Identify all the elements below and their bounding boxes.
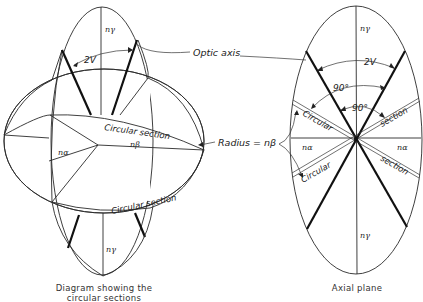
label-90-inner: 90° [352, 103, 368, 113]
label-2v-left: 2V [84, 55, 97, 65]
two-v-arc [74, 50, 132, 65]
left-indicatrix: nγ 2V Circular section nβ nα Circular se… [4, 7, 204, 302]
label-90-outer: 90° [333, 83, 349, 93]
label-n-beta: nβ [130, 140, 140, 149]
caption-left-line2: circular sections [67, 293, 142, 302]
optic-axis-left-lower [68, 215, 79, 248]
optic-axis-leader-right [240, 56, 306, 60]
label-section-lower-right: section [379, 153, 411, 177]
optic-axis-right-lower [135, 213, 145, 237]
label-circular-upper-left: Circular [301, 108, 335, 133]
label-section-upper-right: section [378, 105, 410, 129]
label-n-alpha-left: nα [302, 143, 313, 152]
label-2v-right: 2V [364, 57, 377, 67]
label-n-gamma-top-right: nγ [360, 24, 370, 33]
caption-left-line1: Diagram showing the [56, 283, 153, 293]
optic-axis-leader-left [138, 45, 190, 53]
left-axis [4, 135, 49, 138]
callouts: Optic axis Radius = nβ [138, 45, 306, 178]
radius-leader-upper [279, 112, 296, 144]
label-n-gamma-bottom: nγ [106, 245, 116, 254]
label-n-gamma-top: nγ [105, 25, 115, 34]
label-n-gamma-bottom-right: nγ [360, 231, 370, 240]
label-optic-axis: Optic axis [193, 47, 240, 58]
indicatrix-diagram: nγ 2V Circular section nβ nα Circular se… [0, 0, 423, 302]
label-n-alpha: nα [58, 148, 69, 157]
right-axial-plane: nγ 2V 90° 90° Circular section nα nα Cir… [290, 6, 422, 293]
label-n-alpha-right: nα [397, 143, 408, 152]
caption-right: Axial plane [332, 283, 382, 293]
label-radius: Radius = nβ [218, 137, 276, 148]
upper-left-lobe [4, 50, 62, 135]
